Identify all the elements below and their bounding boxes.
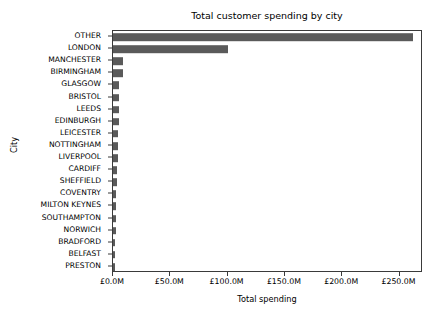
bar-preston xyxy=(113,263,115,271)
bar-row xyxy=(113,67,423,79)
y-tick-label-liverpool: LIVERPOOL xyxy=(58,153,101,161)
x-tick-label: £250.0M xyxy=(381,277,415,286)
y-tick-mark xyxy=(108,144,112,145)
bar-sheffield xyxy=(113,178,117,186)
bar-row xyxy=(113,249,423,261)
bar-row xyxy=(113,55,423,67)
y-tick-mark xyxy=(108,229,112,230)
bar-row xyxy=(113,152,423,164)
y-tick-mark xyxy=(108,96,112,97)
bar-leeds xyxy=(113,106,119,114)
bar-edinburgh xyxy=(113,118,119,126)
bar-row xyxy=(113,237,423,249)
y-tick-mark xyxy=(108,36,112,37)
y-tick-label-preston: PRESTON xyxy=(65,262,101,270)
y-tick-label-cardiff: CARDIFF xyxy=(68,165,101,173)
bar-birmingham xyxy=(113,70,123,78)
bar-row xyxy=(113,140,423,152)
y-tick-label-leeds: LEEDS xyxy=(77,105,102,113)
x-axis-title: Total spending xyxy=(112,294,422,304)
y-tick-mark xyxy=(108,193,112,194)
bar-row xyxy=(113,261,423,273)
bar-row xyxy=(113,188,423,200)
y-tick-mark xyxy=(108,169,112,170)
x-tick-label: £150.0M xyxy=(267,277,301,286)
x-tick-label: £100.0M xyxy=(210,277,244,286)
bar-liverpool xyxy=(113,154,118,162)
bar-row xyxy=(113,164,423,176)
y-tick-mark xyxy=(108,217,112,218)
bar-nottingham xyxy=(113,142,118,150)
bar-belfast xyxy=(113,251,115,259)
y-tick-mark xyxy=(108,120,112,121)
y-tick-mark xyxy=(108,132,112,133)
bar-row xyxy=(113,200,423,212)
bar-bradford xyxy=(113,239,115,247)
bar-row xyxy=(113,79,423,91)
y-tick-mark xyxy=(108,157,112,158)
y-tick-mark xyxy=(108,60,112,61)
y-tick-label-leicester: LEICESTER xyxy=(60,129,101,137)
y-tick-label-norwich: NORWICH xyxy=(64,226,101,234)
y-tick-label-coventry: COVENTRY xyxy=(60,190,101,198)
plot-area xyxy=(112,30,422,272)
chart-title: Total customer spending by city xyxy=(112,10,422,21)
bar-row xyxy=(113,92,423,104)
y-tick-label-nottingham: NOTTINGHAM xyxy=(49,141,101,149)
x-tick-label: £200.0M xyxy=(324,277,358,286)
bar-milton-keynes xyxy=(113,203,116,211)
x-tick-label: £50.0M xyxy=(155,277,184,286)
y-tick-label-belfast: BELFAST xyxy=(68,250,101,258)
y-tick-label-bradford: BRADFORD xyxy=(58,238,101,246)
y-tick-mark xyxy=(108,181,112,182)
y-tick-label-birmingham: BIRMINGHAM xyxy=(50,69,101,77)
bar-other xyxy=(113,33,413,41)
y-tick-mark xyxy=(108,108,112,109)
bar-row xyxy=(113,128,423,140)
y-tick-mark xyxy=(108,72,112,73)
bar-row xyxy=(113,176,423,188)
y-tick-mark xyxy=(108,265,112,266)
bar-row xyxy=(113,43,423,55)
y-tick-label-edinburgh: EDINBURGH xyxy=(55,117,101,125)
y-tick-label-sheffield: SHEFFIELD xyxy=(60,177,101,185)
bar-southampton xyxy=(113,215,116,223)
bar-row xyxy=(113,213,423,225)
bar-coventry xyxy=(113,191,116,199)
y-tick-label-glasgow: GLASGOW xyxy=(61,81,101,89)
y-tick-mark xyxy=(108,253,112,254)
bar-london xyxy=(113,45,228,53)
bars-container xyxy=(113,31,421,271)
y-tick-mark xyxy=(108,205,112,206)
y-tick-label-milton-keynes: MILTON KEYNES xyxy=(41,202,101,210)
y-tick-label-manchester: MANCHESTER xyxy=(48,56,101,64)
bar-manchester xyxy=(113,57,123,65)
y-tick-mark xyxy=(108,84,112,85)
y-tick-label-london: LONDON xyxy=(68,44,101,52)
y-tick-label-southampton: SOUTHAMPTON xyxy=(42,214,101,222)
y-axis-title: City xyxy=(9,125,19,165)
bar-norwich xyxy=(113,227,116,235)
bar-glasgow xyxy=(113,82,119,90)
bar-leicester xyxy=(113,130,118,138)
y-tick-label-bristol: BRISTOL xyxy=(69,93,101,101)
y-tick-mark xyxy=(108,48,112,49)
bar-cardiff xyxy=(113,166,117,174)
bar-row xyxy=(113,225,423,237)
bar-row xyxy=(113,116,423,128)
bar-bristol xyxy=(113,94,119,102)
x-tick-label: £0.0M xyxy=(100,277,124,286)
y-tick-mark xyxy=(108,241,112,242)
y-tick-label-other: OTHER xyxy=(75,32,101,40)
chart-figure: Total customer spending by city OTHERLON… xyxy=(0,0,446,317)
bar-row xyxy=(113,104,423,116)
bar-row xyxy=(113,31,423,43)
